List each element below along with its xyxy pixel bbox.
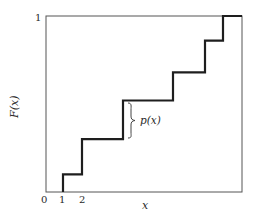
x-tick-label-0: 0 (41, 194, 47, 205)
plot-frame (46, 16, 242, 192)
cdf-step-chart: 1 0 1 2 x p(x) F(x) (0, 0, 253, 216)
x-tick-label-2: 2 (79, 194, 85, 205)
y-top-tick-label: 1 (35, 12, 41, 23)
jump-label: p(x) (140, 114, 161, 126)
y-axis-label: F(x) (8, 96, 21, 119)
x-tick-label-1: 1 (59, 194, 65, 205)
cdf-step-line (63, 16, 242, 192)
jump-brace-icon (128, 103, 135, 138)
x-axis-label: x (142, 199, 149, 212)
